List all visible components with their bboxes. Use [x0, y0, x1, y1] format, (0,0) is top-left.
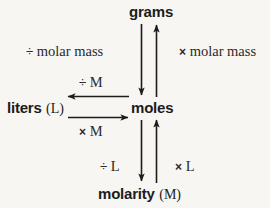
divide-operator-icon: ÷	[100, 159, 107, 174]
label-times-l: × L	[175, 159, 195, 174]
label-times-molar-mass-text: molar mass	[190, 43, 256, 59]
node-liters-symbol: (L)	[46, 101, 64, 116]
label-divide-m-text: M	[90, 74, 103, 90]
node-moles-label: moles	[131, 99, 173, 116]
divide-operator-icon: ÷	[26, 44, 33, 59]
label-divide-m: ÷ M	[79, 75, 103, 90]
mole-conversion-diagram: grams moles liters (L) molarity (M) ÷ mo…	[0, 0, 270, 208]
divide-operator-icon: ÷	[79, 75, 86, 90]
node-liters-label: liters	[7, 99, 42, 116]
label-divide-l: ÷ L	[100, 159, 120, 174]
label-times-l-text: L	[186, 158, 195, 174]
label-times-m-text: M	[90, 123, 103, 139]
node-molarity-label: molarity	[98, 185, 155, 202]
node-moles: moles	[131, 100, 173, 116]
label-times-molar-mass: × molar mass	[179, 44, 256, 59]
multiply-operator-icon: ×	[175, 160, 182, 174]
node-grams-label: grams	[129, 3, 173, 20]
node-grams: grams	[129, 4, 173, 20]
label-divide-molar-mass-text: molar mass	[37, 43, 103, 59]
label-times-m: × M	[79, 124, 103, 139]
multiply-operator-icon: ×	[79, 125, 86, 139]
node-molarity-symbol: (M)	[159, 187, 181, 202]
multiply-operator-icon: ×	[179, 45, 186, 59]
node-liters: liters (L)	[7, 100, 64, 116]
label-divide-l-text: L	[111, 158, 120, 174]
label-divide-molar-mass: ÷ molar mass	[26, 44, 103, 59]
node-molarity: molarity (M)	[98, 186, 181, 202]
